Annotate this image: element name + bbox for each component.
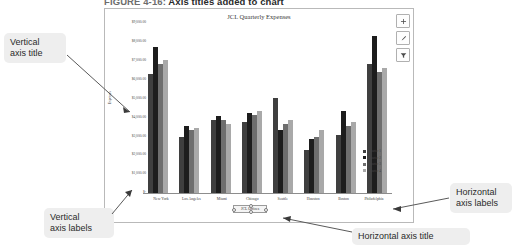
y-tick-label: $5,000.00 xyxy=(132,97,146,101)
chart-canvas[interactable]: JCL Quarterly Expenses Expenses $9,000.0… xyxy=(104,8,414,223)
callout-line-1: Horizontal xyxy=(456,187,506,198)
legend-item[interactable]: Quarter 3 xyxy=(363,162,381,166)
chart-title[interactable]: JCL Quarterly Expenses xyxy=(105,13,413,20)
resize-handle-left[interactable] xyxy=(232,208,236,212)
callout-line-2: axis labels xyxy=(50,223,108,234)
x-tick-label: Los Angeles xyxy=(176,197,206,201)
bar-group[interactable] xyxy=(336,25,356,193)
bar-series-layer xyxy=(145,25,390,193)
bar[interactable] xyxy=(382,68,387,193)
y-tick-label: $6,000.00 xyxy=(132,78,146,82)
figure-caption-text: Axis titles added to chart xyxy=(168,0,284,7)
category-axis-line xyxy=(143,193,392,194)
horizontal-axis-labels[interactable]: New York Los Angeles Miami Chicago Seatt… xyxy=(145,197,390,201)
x-tick-label: Chicago xyxy=(237,197,267,201)
callout-vertical-axis-title: Vertical axis title xyxy=(4,33,66,63)
y-tick-label: $9,000.00 xyxy=(132,21,146,25)
callout-vertical-axis-labels: Vertical axis labels xyxy=(44,208,114,238)
x-tick-label: Houston xyxy=(298,197,328,201)
legend-label: Quarter 3 xyxy=(368,162,381,166)
chart-elements-button[interactable] xyxy=(396,14,410,28)
chart-legend[interactable]: Quarter 1Quarter 2Quarter 3Quarter 4 xyxy=(363,149,381,173)
chart-side-buttons xyxy=(396,14,410,62)
bar[interactable] xyxy=(319,130,324,193)
bar[interactable] xyxy=(351,122,356,193)
callout-line-2: axis title xyxy=(10,48,60,59)
x-tick-label: Seattle xyxy=(268,197,298,201)
x-tick-label: New York xyxy=(146,197,176,201)
bar-group[interactable] xyxy=(179,25,199,193)
vertical-axis-labels[interactable]: $9,000.00 $8,000.00 $7,000.00 $6,000.00 … xyxy=(119,21,146,195)
legend-label: Quarter 4 xyxy=(368,169,381,173)
chart-styles-button[interactable] xyxy=(396,31,410,45)
legend-item[interactable]: Quarter 2 xyxy=(363,156,381,160)
legend-swatch xyxy=(363,156,366,159)
callout-line-1: Vertical xyxy=(50,212,108,223)
y-tick-label: $1,000.00 xyxy=(132,172,146,176)
bar-group[interactable] xyxy=(273,25,293,193)
y-tick-label: $2,000.00 xyxy=(132,153,146,157)
bar[interactable] xyxy=(226,124,231,193)
horizontal-axis-title[interactable]: JCL Offices xyxy=(233,205,267,213)
y-tick-label: $8,000.00 xyxy=(132,40,146,44)
bar-group[interactable] xyxy=(211,25,231,193)
bar[interactable] xyxy=(288,120,293,193)
resize-handle-right[interactable] xyxy=(264,208,268,212)
legend-label: Quarter 1 xyxy=(368,149,381,153)
x-tick-label: Boston xyxy=(329,197,359,201)
legend-swatch xyxy=(363,150,366,153)
x-tick-label: Miami xyxy=(207,197,237,201)
vertical-axis-title[interactable]: Expenses xyxy=(108,91,112,104)
bar[interactable] xyxy=(194,128,199,193)
plot-area[interactable] xyxy=(145,25,390,193)
figure-caption: FIGURE 4-16: Axis titles added to chart xyxy=(104,0,404,7)
resize-handle-bottom[interactable] xyxy=(249,210,253,214)
legend-item[interactable]: Quarter 1 xyxy=(363,149,381,153)
callout-horizontal-axis-title: Horizontal axis title xyxy=(352,228,470,245)
x-tick-label: Philadelphia xyxy=(359,197,389,201)
callout-horizontal-axis-labels: Horizontal axis labels xyxy=(450,183,512,213)
y-tick-label: $3,000.00 xyxy=(132,135,146,139)
callout-line-1: Vertical xyxy=(10,37,60,48)
figure-number: FIGURE 4-16: xyxy=(104,0,166,7)
bar[interactable] xyxy=(163,60,168,193)
bar-group[interactable] xyxy=(242,25,262,193)
callout-line-2: axis labels xyxy=(456,198,506,209)
y-tick-label: $7,000.00 xyxy=(132,59,146,63)
legend-label: Quarter 2 xyxy=(368,156,381,160)
bar-group[interactable] xyxy=(304,25,324,193)
resize-handle-top[interactable] xyxy=(249,204,253,208)
callout-line-1: Horizontal axis title xyxy=(358,231,464,242)
legend-item[interactable]: Quarter 4 xyxy=(363,169,381,173)
bar[interactable] xyxy=(257,111,262,193)
legend-swatch xyxy=(363,163,366,166)
chart-filters-button[interactable] xyxy=(396,48,410,62)
legend-swatch xyxy=(363,169,366,172)
bar-group[interactable] xyxy=(148,25,168,193)
y-tick-label: $4,000.00 xyxy=(132,116,146,120)
